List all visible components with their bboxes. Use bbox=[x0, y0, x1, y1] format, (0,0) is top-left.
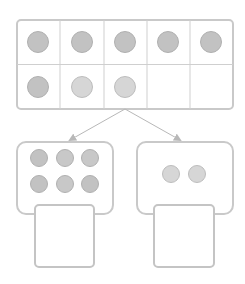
number-bond-diagram bbox=[0, 0, 245, 284]
counter-dark-icon bbox=[28, 32, 49, 53]
counter-light-icon bbox=[72, 77, 93, 98]
arrow-down-right-icon bbox=[125, 109, 180, 140]
left-answer-box[interactable] bbox=[35, 205, 94, 267]
counter-dark-icon bbox=[28, 77, 49, 98]
ten-frame bbox=[17, 20, 233, 109]
counter-dark-icon bbox=[115, 32, 136, 53]
counter-dark-icon bbox=[31, 176, 48, 193]
counter-light-icon bbox=[115, 77, 136, 98]
counter-dark-icon bbox=[82, 176, 99, 193]
counter-dark-icon bbox=[57, 150, 74, 167]
counter-dark-icon bbox=[72, 32, 93, 53]
arrow-down-left-icon bbox=[70, 109, 125, 140]
right-answer-box[interactable] bbox=[154, 205, 214, 267]
left-group bbox=[17, 142, 113, 267]
right-counter-box bbox=[137, 142, 233, 214]
counter-light-icon bbox=[163, 166, 180, 183]
counter-dark-icon bbox=[31, 150, 48, 167]
right-group bbox=[137, 142, 233, 267]
counter-dark-icon bbox=[57, 176, 74, 193]
counter-dark-icon bbox=[201, 32, 222, 53]
counter-light-icon bbox=[189, 166, 206, 183]
counter-dark-icon bbox=[82, 150, 99, 167]
counter-dark-icon bbox=[158, 32, 179, 53]
